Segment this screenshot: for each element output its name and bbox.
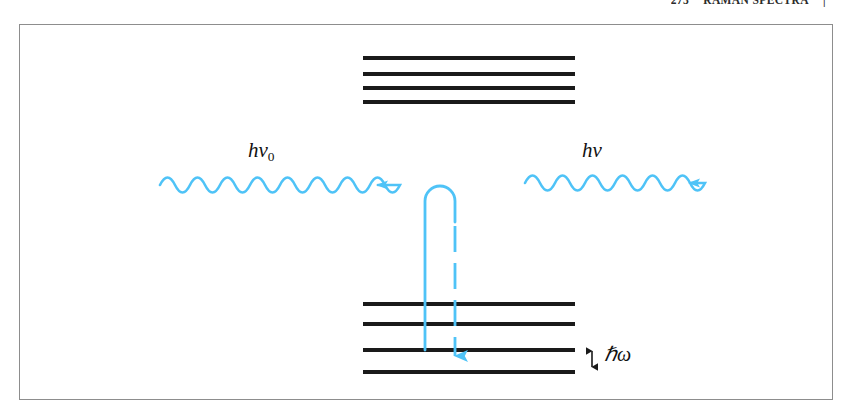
incoming-photon-label-h: h [248, 138, 259, 162]
outgoing-photon-label-nu: ν [593, 138, 602, 162]
level-spacing-label-omega: ω [617, 343, 631, 365]
lower-energy-level-2 [363, 322, 575, 326]
lower-energy-level-1 [363, 302, 575, 306]
figure-frame [19, 24, 833, 400]
upper-energy-level-4 [363, 100, 575, 104]
upper-energy-level-2 [363, 72, 575, 76]
incoming-photon-label-nu: ν [259, 138, 268, 162]
running-head-folio: | [823, 0, 833, 6]
page-canvas: 273 RAMAN SPECTRA | [0, 0, 851, 417]
incoming-photon-label-subscript: 0 [268, 149, 275, 164]
running-head-title: RAMAN SPECTRA [703, 0, 809, 6]
upper-energy-level-1 [363, 56, 575, 60]
outgoing-photon-label-h: h [582, 138, 593, 162]
upper-energy-level-3 [363, 86, 575, 90]
running-head-page-number: 273 [671, 0, 689, 6]
level-spacing-label-hbar: ℏ [604, 343, 617, 365]
lower-energy-level-3 [363, 348, 575, 352]
outgoing-photon-label: hν [582, 140, 602, 161]
level-spacing-label: ℏω [604, 344, 631, 364]
lower-energy-level-4 [363, 370, 575, 374]
running-head: 273 RAMAN SPECTRA | [671, 0, 833, 7]
incoming-photon-label: hν0 [248, 140, 275, 163]
